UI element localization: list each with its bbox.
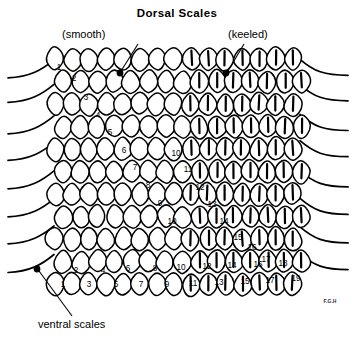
scale-smooth (114, 93, 132, 114)
callout-label-smooth: (smooth) (62, 28, 105, 40)
scale-number-bl-3: 3 (87, 280, 92, 289)
keel-mark (250, 73, 251, 87)
keel-mark (259, 141, 260, 155)
scale-number-dr-7: 7 (133, 163, 138, 172)
dorsal-scales-diagram: 1234567891010111213141516172468101214161… (0, 0, 354, 342)
scale-mesh (45, 47, 311, 297)
scale-number-bu-4: 4 (101, 266, 106, 275)
scale-number-dr-5: 5 (108, 128, 113, 137)
callout-label-ventral-scales: ventral scales (38, 318, 106, 330)
scale-number-dl-10: 10 (171, 149, 181, 158)
scale-number-bl-9: 9 (165, 280, 170, 289)
keel-mark (292, 141, 293, 155)
callout-dot (34, 266, 41, 273)
scale-number-bu-8: 8 (153, 264, 158, 273)
scale-number-bu-18: 18 (278, 259, 288, 268)
scale-smooth (131, 92, 149, 114)
scale-number-dl-15: 15 (233, 233, 243, 242)
scale-number-dl-11: 11 (184, 165, 193, 174)
scale-smooth (63, 272, 81, 294)
keel-mark (301, 73, 302, 87)
scale-number-bl-13: 13 (214, 278, 224, 287)
scale-number-bu-6: 6 (126, 264, 131, 273)
keel-mark (233, 73, 234, 87)
scale-number-dl-13: 13 (207, 200, 217, 209)
scale-smooth (131, 229, 148, 251)
scale-number-bl-1: 1 (61, 280, 66, 289)
keel-mark (293, 185, 294, 199)
keel-mark (259, 275, 260, 289)
scale-number-dr-3: 3 (84, 93, 89, 102)
scale-number-dl-14: 14 (219, 217, 229, 226)
scale-smooth (64, 139, 81, 161)
keel-mark (301, 208, 302, 222)
scale-number-bu-14: 14 (227, 261, 237, 270)
callout-dot (223, 70, 230, 77)
callout-dot (117, 70, 124, 77)
keel-mark (208, 51, 209, 65)
scale-number-dr-4: 4 (96, 111, 101, 120)
scale-number-bl-11: 11 (189, 279, 198, 288)
keel-mark (250, 208, 251, 222)
scale-number-bl-15: 15 (240, 277, 250, 286)
scale-number-dr-10: 10 (167, 217, 177, 226)
scale-smooth (47, 183, 65, 205)
scale-smooth (81, 228, 98, 250)
scale-number-dr-1: 1 (57, 63, 62, 72)
keel-mark (191, 51, 192, 65)
scale-number-bu-10: 10 (176, 263, 186, 272)
keel-mark (301, 164, 302, 178)
scale-number-dl-12: 12 (195, 183, 205, 192)
scale-smooth (130, 138, 148, 160)
callout-label-keeled: (keeled) (228, 28, 268, 40)
scale-smooth (47, 138, 64, 162)
scale-number-dr-6: 6 (122, 146, 127, 155)
scale-number-bl-7: 7 (139, 280, 144, 289)
scale-smooth (149, 48, 166, 70)
page-title: Dorsal Scales (137, 7, 218, 19)
keel-mark (207, 186, 208, 200)
scale-number-dr-9: 9 (158, 199, 163, 208)
scale-smooth (80, 49, 98, 72)
scale-number-bl-5: 5 (114, 280, 119, 289)
scale-number-dl-17: 17 (261, 255, 271, 264)
keel-mark (259, 187, 260, 201)
scale-number-dr-8: 8 (146, 181, 151, 190)
keel-mark (268, 208, 269, 222)
artist-signature: F.G.H (324, 298, 337, 304)
scale-number-bu-16: 16 (253, 260, 263, 269)
keel-mark (293, 97, 294, 111)
scale-number-bu-2: 2 (74, 266, 79, 275)
scale-smooth (64, 49, 82, 71)
keel-mark (259, 95, 260, 109)
scale-number-dl-16: 16 (247, 243, 257, 252)
scale-number-bu-12: 12 (202, 262, 212, 271)
scale-number-dr-2: 2 (72, 74, 77, 83)
scale-number-bl-17: 17 (265, 276, 275, 285)
keel-mark (285, 119, 286, 133)
scale-smooth (64, 228, 81, 251)
scale-number-bl-19: 19 (291, 274, 301, 283)
scale-smooth (89, 161, 106, 183)
keel-mark (200, 209, 201, 223)
